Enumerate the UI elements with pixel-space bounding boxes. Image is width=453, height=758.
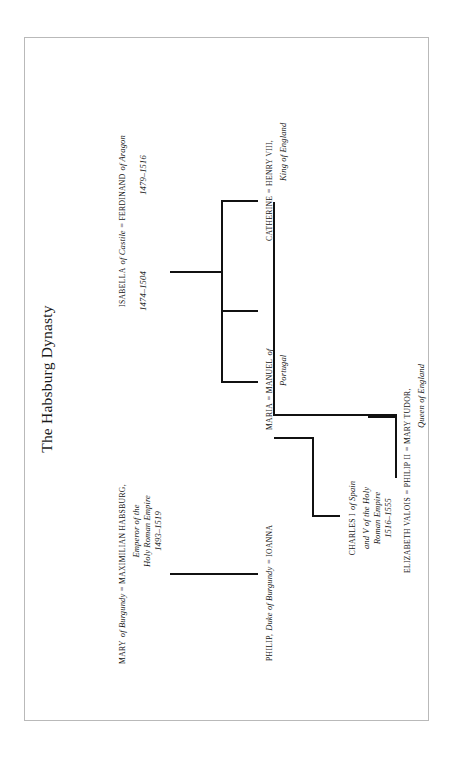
connector-charles-drop: [312, 515, 340, 517]
manuel-descriptor-2: Portugal: [278, 280, 289, 386]
connector-maximilian-vertical: [170, 573, 258, 575]
ferdinand-descriptor: of Aragon: [117, 135, 127, 170]
ferdinand-name: FERDINAND: [118, 173, 127, 220]
connector-joanna-drop: [221, 381, 258, 383]
mary-tudor-descriptor: Queen of England: [416, 283, 427, 428]
marriage-equals-1: =: [118, 584, 127, 594]
node-mary-maximilian-line1: MARYof Burgundy=MAXIMILIAN HABSBURG,: [110, 449, 131, 699]
maximilian-dates: 1493–1519: [153, 449, 164, 613]
rotated-artwork-surface: The Habsburg Dynasty MARYof Burgundy=MAX…: [24, 37, 429, 721]
marriage-equals-5: =: [265, 186, 274, 196]
mary-name: MARY: [118, 640, 127, 664]
page-title: The Habsburg Dynasty: [38, 229, 56, 529]
connector-ferdinand-stem: [170, 271, 223, 273]
charles-name: CHARLES I: [348, 513, 357, 555]
elizabeth-valois-name: ELIZABETH VALOIS: [403, 497, 412, 573]
connector-ferdinand-sibling-bar: [221, 201, 223, 383]
page: The Habsburg Dynasty MARYof Burgundy=MAX…: [0, 0, 453, 758]
charles-dates: 1516–1555: [383, 423, 394, 613]
marriage-equals-3: =: [265, 557, 274, 567]
maximilian-descriptor-1: Emperor of the: [131, 449, 142, 613]
marriage-equals-2: =: [118, 220, 127, 230]
marriage-equals-6: =: [403, 487, 412, 497]
connector-catherine-drop: [221, 200, 258, 202]
joanna-name: IOANNA: [265, 525, 274, 557]
mary-descriptor: of Burgundy: [117, 594, 127, 638]
connector-charles-bar: [312, 437, 314, 517]
maximilian-name: MAXIMILIAN HABSBURG,: [118, 484, 127, 584]
philip-name: PHILIP,: [265, 634, 274, 661]
charles-descriptor-2: and V of the Holy: [361, 423, 372, 613]
isabella-dates: 1474–1504: [138, 245, 149, 337]
connector-philip-joanna-stem: [274, 437, 314, 439]
connector-philip-ii-bar: [395, 416, 397, 478]
connector-mary-tudor-bar: [273, 202, 275, 416]
node-isabella-ferdinand-line1: ISABELLAof Castile=FERDINANDof Aragon: [110, 91, 131, 351]
node-isabella-ferdinand: ISABELLAof Castile=FERDINANDof Aragon 14…: [110, 91, 152, 351]
node-philip-ii-line1: ELIZABETH VALOIS=PHILIP II=MARY TUDOR,: [395, 283, 416, 573]
henry-name: HENRY VIII,: [265, 140, 274, 186]
isabella-descriptor: of Castile: [117, 230, 127, 264]
ferdinand-dates: 1479–1516: [138, 105, 149, 245]
marriage-equals-7: =: [403, 444, 412, 454]
isabella-name: ISABELLA: [118, 267, 127, 307]
henry-descriptor: King of England: [278, 61, 289, 181]
node-philip-ii: ELIZABETH VALOIS=PHILIP II=MARY TUDOR, Q…: [395, 283, 427, 573]
maximilian-descriptor-2: Holy Roman Empire: [142, 449, 153, 613]
isabella-ferdinand-dates-row: 1474–15041479–1516: [131, 91, 152, 351]
connector-maria-drop: [221, 310, 258, 312]
philip-descriptor: Duke of Burgundy: [264, 567, 274, 631]
node-philip-joanna: PHILIP,Duke of Burgundy=IOANNA: [257, 431, 278, 661]
node-charles: CHARLES Iof Spain and V of the Holy Roma…: [340, 423, 394, 613]
node-mary-maximilian: MARYof Burgundy=MAXIMILIAN HABSBURG, Emp…: [110, 449, 164, 699]
connector-mary-tudor-drop: [273, 414, 397, 416]
connector-charles-to-philip-ii: [368, 416, 397, 418]
node-charles-line1: CHARLES Iof Spain: [340, 423, 361, 613]
family-tree-canvas: The Habsburg Dynasty MARYof Burgundy=MAX…: [24, 37, 429, 721]
charles-descriptor-3: Roman Empire: [372, 423, 383, 613]
charles-descriptor-1: of Spain: [347, 481, 357, 510]
mary-tudor-name: MARY TUDOR,: [403, 388, 412, 444]
philip-ii-name: PHILIP II: [403, 454, 412, 487]
node-philip-joanna-line1: PHILIP,Duke of Burgundy=IOANNA: [257, 431, 278, 661]
